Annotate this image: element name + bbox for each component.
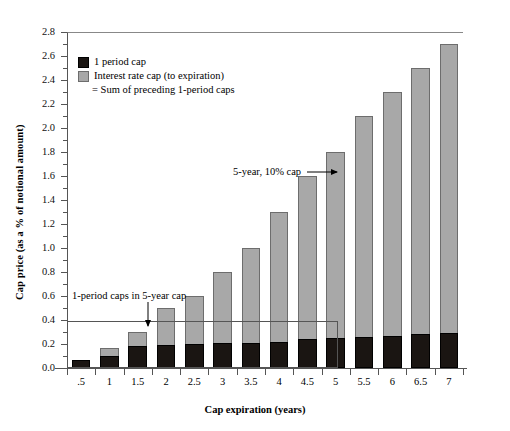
x-tick <box>293 368 294 375</box>
x-tick <box>95 368 96 375</box>
x-tick-label: 7 <box>429 376 469 387</box>
bar-6-5 <box>411 68 430 368</box>
y-tick-minor <box>63 68 67 69</box>
x-tick <box>124 368 125 375</box>
legend-item-interest-rate-cap: Interest rate cap (to expiration) <box>78 69 235 83</box>
x-tick <box>406 368 407 375</box>
y-tick <box>61 272 67 273</box>
y-tick-label: 2.4 <box>15 75 55 86</box>
y-tick-minor <box>63 164 67 165</box>
bar-5-5 <box>355 116 374 368</box>
y-tick <box>61 224 67 225</box>
x-tick <box>350 368 351 375</box>
y-tick-minor <box>63 188 67 189</box>
legend-item-1-period-cap: 1 period cap <box>78 55 235 69</box>
y-tick-label: 2.2 <box>15 99 55 110</box>
y-tick-label: 2.8 <box>15 27 55 38</box>
y-tick <box>61 32 67 33</box>
y-tick-label: 1.0 <box>15 243 55 254</box>
annotation-1-period-caps-in-5-year-cap: 1-period caps in 5-year cap <box>72 290 186 301</box>
x-tick <box>378 368 379 375</box>
bar-segment-1-period-cap <box>411 334 430 368</box>
y-tick <box>61 176 67 177</box>
x-axis-baseline <box>55 368 467 369</box>
legend-swatch-grey-icon <box>78 71 89 82</box>
y-tick-label: 0.6 <box>15 291 55 302</box>
y-tick <box>61 56 67 57</box>
x-tick <box>435 368 436 375</box>
y-tick <box>61 296 67 297</box>
bar-segment-1-period-cap <box>440 333 459 368</box>
y-tick-minor <box>63 260 67 261</box>
x-tick <box>265 368 266 375</box>
bar-segment-1-period-cap <box>383 336 402 368</box>
y-tick-minor <box>63 212 67 213</box>
x-tick <box>152 368 153 375</box>
y-tick-label: 0.2 <box>15 339 55 350</box>
bar-segment-interest-rate-cap <box>383 92 402 368</box>
y-tick-label: 2.6 <box>15 51 55 62</box>
x-tick <box>180 368 181 375</box>
y-tick-label: 1.4 <box>15 195 55 206</box>
bar-7 <box>440 44 459 368</box>
annotation-5-year-10-percent-cap: 5-year, 10% cap <box>233 166 301 177</box>
y-tick-minor <box>63 44 67 45</box>
cap-price-bar-chart: Cap price (as a % of notional amount) 0.… <box>0 0 510 431</box>
y-tick-minor <box>63 140 67 141</box>
y-tick <box>61 248 67 249</box>
y-tick <box>61 128 67 129</box>
legend-label-1-period-cap: 1 period cap <box>94 55 146 69</box>
y-tick-minor <box>63 236 67 237</box>
y-tick-label: 1.8 <box>15 147 55 158</box>
x-tick <box>67 368 68 375</box>
y-tick-label: 0.8 <box>15 267 55 278</box>
x-tick <box>237 368 238 375</box>
y-tick-label: 1.2 <box>15 219 55 230</box>
x-tick <box>463 368 464 375</box>
y-tick-minor <box>63 116 67 117</box>
legend-swatch-black-icon <box>78 57 89 68</box>
x-tick <box>322 368 323 375</box>
y-tick <box>61 152 67 153</box>
x-tick <box>208 368 209 375</box>
y-tick-label: 1.6 <box>15 171 55 182</box>
y-tick-minor <box>63 284 67 285</box>
y-tick-minor <box>63 92 67 93</box>
legend: 1 period cap Interest rate cap (to expir… <box>78 55 235 97</box>
legend-sublabel-sum-of-preceding: = Sum of preceding 1-period caps <box>78 83 235 97</box>
bar-segment-interest-rate-cap <box>440 44 459 368</box>
bar-segment-interest-rate-cap <box>355 116 374 368</box>
bar-segment-interest-rate-cap <box>411 68 430 368</box>
y-tick <box>61 104 67 105</box>
y-tick-label: 2.0 <box>15 123 55 134</box>
y-tick <box>61 200 67 201</box>
y-tick <box>61 80 67 81</box>
one-period-caps-callout-box <box>67 321 338 368</box>
y-tick-label: 0.0 <box>15 363 55 374</box>
y-tick-label: 0.4 <box>15 315 55 326</box>
y-tick-minor <box>63 308 67 309</box>
bar-6 <box>383 92 402 368</box>
legend-label-interest-rate-cap: Interest rate cap (to expiration) <box>94 69 224 83</box>
x-axis-title: Cap expiration (years) <box>0 404 510 415</box>
bar-segment-1-period-cap <box>355 337 374 368</box>
